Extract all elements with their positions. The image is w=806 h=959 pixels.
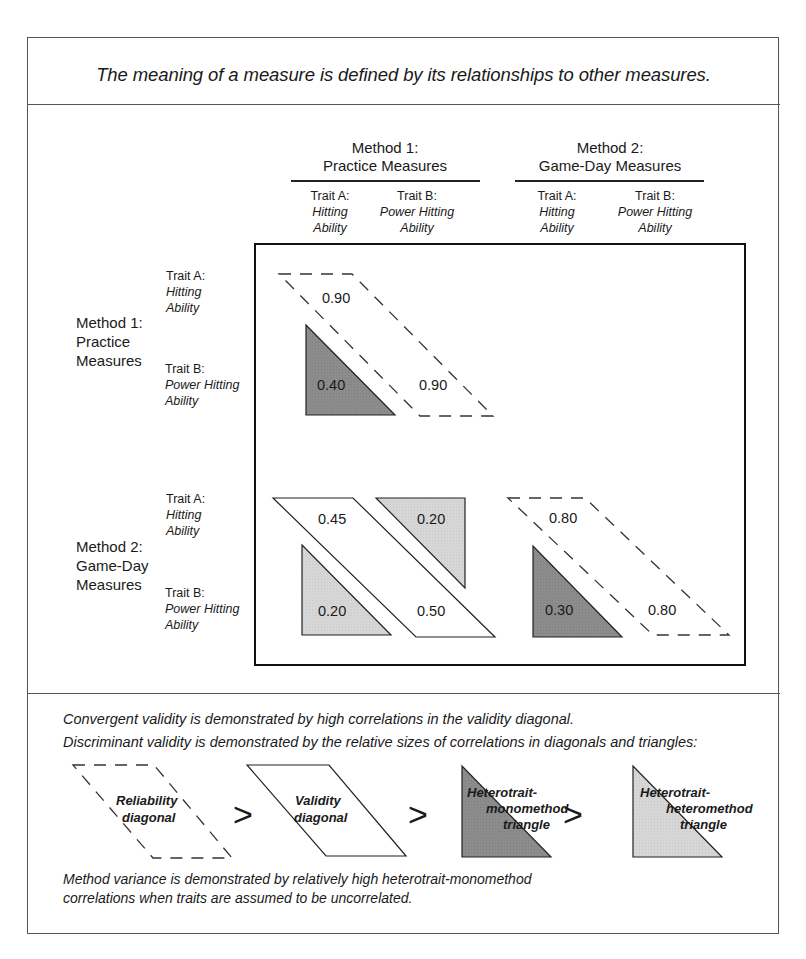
discriminant-validity-legend: Reliability diagonal > Validity diagonal… bbox=[0, 0, 806, 959]
note-method-variance-line1: Method variance is demonstrated by relat… bbox=[63, 870, 531, 889]
legend-hthm-label-2: heteromethod bbox=[666, 801, 754, 816]
legend-validity-label-2: diagonal bbox=[294, 810, 348, 825]
note-method-variance-line2: correlations when traits are assumed to … bbox=[63, 889, 531, 908]
legend-validity-label-1: Validity bbox=[295, 793, 342, 808]
legend-htmm-label-1: Heterotrait- bbox=[467, 785, 537, 800]
note-method-variance: Method variance is demonstrated by relat… bbox=[63, 870, 531, 908]
legend-reliability-label-2: diagonal bbox=[122, 810, 176, 825]
legend-htmm-label-3: triangle bbox=[503, 817, 550, 832]
legend-reliability-label-1: Reliability bbox=[116, 793, 178, 808]
greater-than-icon: > bbox=[563, 795, 583, 833]
legend-htmm-label-2: monomethod bbox=[486, 801, 569, 816]
greater-than-icon: > bbox=[233, 795, 253, 833]
legend-hthm-label-1: Heterotrait- bbox=[640, 785, 710, 800]
legend-hthm-label-3: triangle bbox=[680, 817, 727, 832]
greater-than-icon: > bbox=[408, 795, 428, 833]
